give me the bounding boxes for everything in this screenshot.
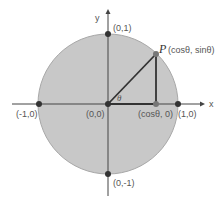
y-axis-arrow-icon [106, 9, 111, 14]
point-origin [105, 101, 111, 107]
label-top: (0,1) [113, 23, 132, 33]
label-p-coords: (cosθ, sinθ) [168, 45, 215, 55]
theta-label: θ [117, 93, 122, 103]
point-left [36, 101, 42, 107]
label-origin: (0,0) [86, 109, 105, 119]
label-foot: (cosθ, 0) [138, 109, 173, 119]
y-axis-label: y [95, 13, 100, 23]
point-foot [153, 101, 159, 107]
label-p-name: P [158, 42, 167, 56]
x-axis-label: x [209, 99, 214, 109]
label-bottom: (0,-1) [113, 178, 135, 188]
point-right [175, 101, 181, 107]
x-axis-arrow-icon [200, 102, 205, 107]
unit-circle-diagram: x y θ (0,1) (0,-1) (-1,0) (1,0) (0,0) (c… [0, 0, 220, 208]
label-left: (-1,0) [16, 109, 38, 119]
point-bottom [105, 171, 111, 177]
point-top [105, 31, 111, 37]
label-right: (1,0) [178, 109, 197, 119]
